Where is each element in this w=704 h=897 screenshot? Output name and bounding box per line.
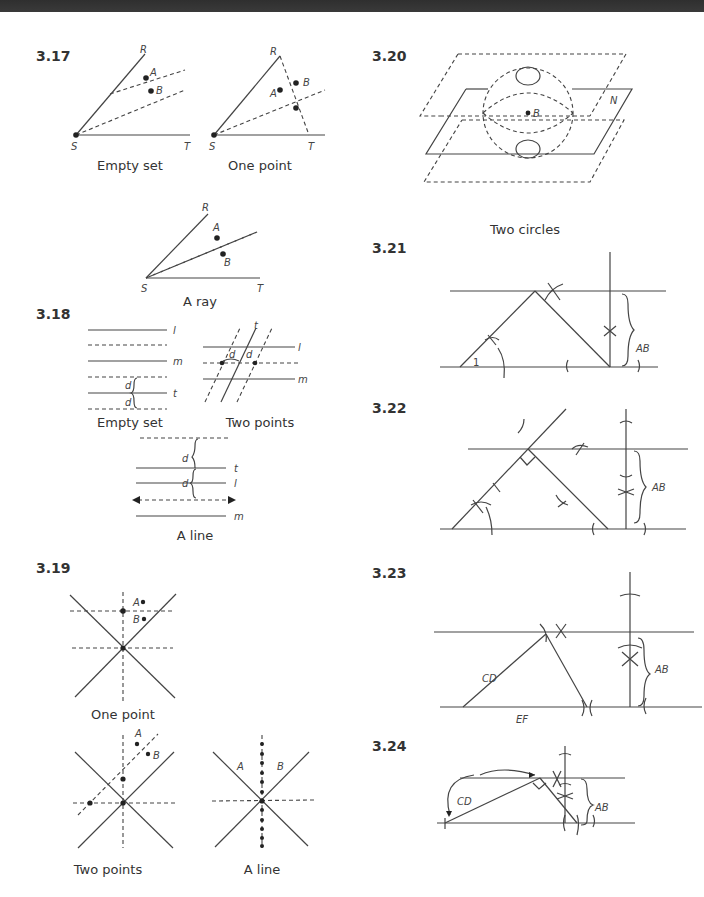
figure-3-17-one-point: R A B S T <box>200 50 340 150</box>
svg-text:CD: CD <box>457 796 472 807</box>
svg-text:t: t <box>173 388 178 399</box>
problem-label-3-20: 3.20 <box>372 48 407 64</box>
figure-3-17-empty-set: R A B S T <box>60 50 200 150</box>
figure-3-19-a-line: A B <box>210 730 330 840</box>
svg-text:AB: AB <box>594 802 609 813</box>
svg-text:d: d <box>125 380 132 391</box>
figure-3-19-two-points: A B <box>70 730 190 840</box>
svg-text:1: 1 <box>473 357 479 368</box>
label-R: R <box>140 44 147 55</box>
page-header-bar <box>0 0 704 12</box>
figure-3-19-one-point: A B <box>65 590 185 705</box>
caption-3-19-one-point: One point <box>73 707 173 722</box>
svg-text:A: A <box>236 761 244 772</box>
problem-label-3-22: 3.22 <box>372 400 407 416</box>
svg-text:AB: AB <box>651 482 666 493</box>
svg-text:A: A <box>149 67 157 78</box>
caption-3-18-two-points: Two points <box>210 415 310 430</box>
svg-text:R: R <box>202 202 209 213</box>
svg-text:B: B <box>277 761 284 772</box>
svg-text:AB: AB <box>654 664 669 675</box>
svg-text:S: S <box>71 141 78 152</box>
svg-text:T: T <box>308 141 315 152</box>
problem-label-3-19: 3.19 <box>36 560 71 576</box>
svg-text:B: B <box>133 614 140 625</box>
svg-text:B: B <box>153 750 160 761</box>
svg-text:d: d <box>182 478 189 489</box>
figure-3-22-construction: AB <box>438 405 704 545</box>
caption-3-19-two-points: Two points <box>58 862 158 877</box>
svg-text:A: A <box>132 597 140 608</box>
svg-text:m: m <box>234 511 244 522</box>
svg-text:B: B <box>303 77 310 88</box>
svg-text:l: l <box>234 478 237 489</box>
svg-text:d: d <box>229 349 236 360</box>
svg-text:A: A <box>212 222 220 233</box>
problem-label-3-18: 3.18 <box>36 306 71 322</box>
svg-text:B: B <box>156 85 163 96</box>
svg-text:S: S <box>141 283 148 294</box>
svg-text:m: m <box>173 356 183 367</box>
figure-3-18-empty-set: l m t d d <box>85 320 185 415</box>
problem-label-3-23: 3.23 <box>372 565 407 581</box>
figure-3-23-construction: AB CD EF <box>432 570 704 705</box>
caption-3-17-empty-set: Empty set <box>80 158 180 173</box>
caption-3-17-one-point: One point <box>210 158 310 173</box>
svg-text:EF: EF <box>516 714 528 725</box>
svg-text:m: m <box>298 374 308 385</box>
caption-3-17-a-ray: A ray <box>150 294 250 309</box>
caption-3-20-two-circles: Two circles <box>475 222 575 237</box>
svg-text:AB: AB <box>635 343 650 354</box>
caption-3-19-a-line: A line <box>212 862 312 877</box>
figure-3-21-construction: AB 1 <box>438 250 704 360</box>
svg-text:S: S <box>209 141 216 152</box>
svg-text:A: A <box>134 728 142 739</box>
svg-text:T: T <box>257 283 264 294</box>
caption-3-18-empty-set: Empty set <box>80 415 180 430</box>
svg-text:t: t <box>254 320 259 331</box>
svg-text:t: t <box>234 463 239 474</box>
svg-text:N: N <box>610 95 618 106</box>
svg-text:l: l <box>173 325 176 336</box>
figure-3-20-sphere-planes: B N <box>420 50 700 200</box>
svg-text:B: B <box>224 257 231 268</box>
svg-text:d: d <box>125 397 132 408</box>
svg-text:d: d <box>182 453 189 464</box>
figure-3-24-construction: AB CD <box>435 745 695 865</box>
svg-text:T: T <box>184 141 191 152</box>
svg-text:CD: CD <box>482 673 497 684</box>
svg-text:R: R <box>270 46 277 57</box>
svg-text:d: d <box>246 349 253 360</box>
caption-3-18-a-line: A line <box>145 528 245 543</box>
figure-3-18-a-line: d d t l m <box>130 435 250 520</box>
figure-3-18-two-points: t l m d d <box>200 325 310 410</box>
svg-text:A: A <box>269 88 277 99</box>
problem-label-3-24: 3.24 <box>372 738 407 754</box>
svg-text:l: l <box>298 342 301 353</box>
figure-3-17-a-ray: R A B S T <box>135 200 275 290</box>
svg-text:B: B <box>533 108 540 119</box>
problem-label-3-21: 3.21 <box>372 240 407 256</box>
